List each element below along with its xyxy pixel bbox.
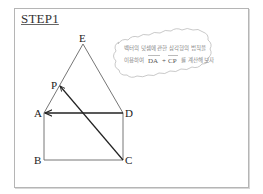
plus-sign: + (162, 57, 166, 65)
label-b: B (34, 154, 41, 166)
note-line2-suffix: 를 계산해 보자 (181, 56, 215, 64)
note-line2-prefix: 이용하여 (124, 56, 144, 64)
note-line1: 벡터의 덧셈에 관한 삼각형의 법칙을 (124, 44, 206, 52)
label-d: D (125, 107, 133, 119)
geometry-diagram: E P A D B C 벡터의 덧셈에 관한 삼각형의 법칙을 이용하여 DA … (0, 0, 263, 194)
label-p: P (51, 79, 57, 91)
label-a: A (34, 107, 42, 119)
vector-cp-label: CP (168, 57, 177, 65)
label-e: E (79, 32, 86, 44)
vector-da-label: DA (148, 57, 158, 65)
rectangle-abcd (44, 113, 123, 160)
note-cloud: 벡터의 덧셈에 관한 삼각형의 법칙을 이용하여 DA + CP 를 계산해 보… (114, 29, 215, 78)
label-c: C (125, 154, 132, 166)
